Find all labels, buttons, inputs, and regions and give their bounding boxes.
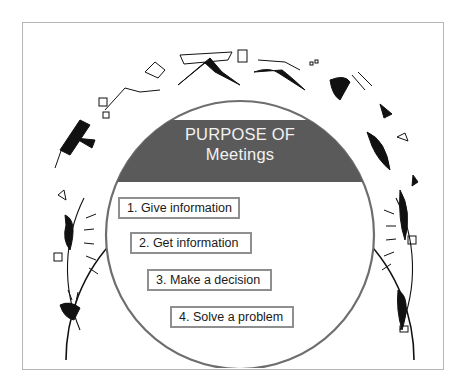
purpose-item-solve-problem: 4. Solve a problem xyxy=(170,306,294,328)
purpose-item-make-decision: 3. Make a decision xyxy=(147,269,272,291)
figure-right-mid xyxy=(367,132,418,186)
ray-marks-left xyxy=(84,214,98,274)
figure-left-mid xyxy=(54,190,73,261)
figure-runner-top-right xyxy=(254,60,318,90)
title-line-2: Meetings xyxy=(140,144,340,164)
purpose-item-give-information: 1. Give information xyxy=(118,197,240,219)
figure-left-bottom xyxy=(60,290,80,320)
diagram-title: PURPOSE OF Meetings xyxy=(140,124,340,164)
figure-flag-top xyxy=(178,50,247,85)
arch-illustration xyxy=(0,0,464,391)
figure-left-upper xyxy=(55,120,95,168)
purpose-item-get-information: 2. Get information xyxy=(130,232,252,254)
figure-runner-left-top xyxy=(99,62,165,118)
title-line-1: PURPOSE OF xyxy=(140,124,340,144)
figure-right-upper xyxy=(330,72,392,118)
